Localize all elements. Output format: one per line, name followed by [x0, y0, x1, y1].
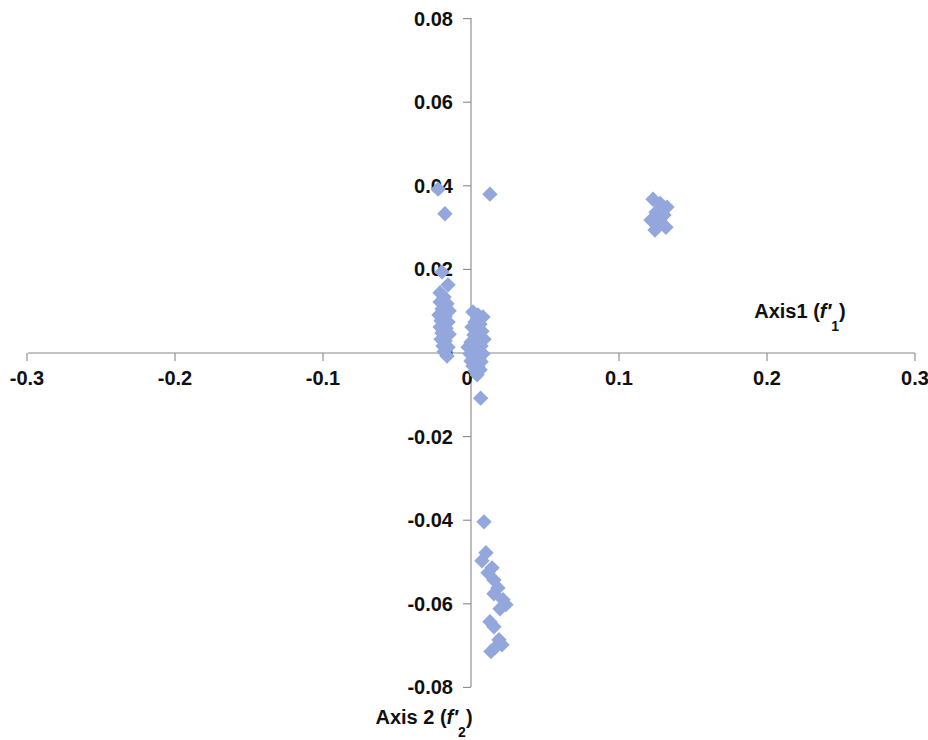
- y-tick-label: -0.08: [407, 676, 453, 698]
- x-axis-title: Axis1 (f′1): [754, 300, 846, 334]
- data-point-marker: [437, 206, 452, 221]
- y-tick-label: 0.08: [414, 8, 453, 30]
- x-tick-label: -0.1: [306, 367, 340, 389]
- data-point-marker: [482, 186, 497, 201]
- x-tick-label: 0.1: [605, 367, 633, 389]
- x-tick-label: -0.3: [10, 367, 44, 389]
- x-tick-label: 0.2: [753, 367, 781, 389]
- data-point-marker: [476, 514, 491, 529]
- data-point-marker: [473, 390, 488, 405]
- y-tick-label: 0.06: [414, 91, 453, 113]
- x-tick-label: -0.2: [158, 367, 192, 389]
- data-points: [430, 181, 674, 659]
- y-axis-title: Axis 2 (f′2): [375, 706, 472, 740]
- y-tick-label: -0.06: [407, 593, 453, 615]
- x-tick-label: 0.3: [901, 367, 928, 389]
- plot-area: -0.3-0.2-0.100.10.20.3 -0.08-0.06-0.04-0…: [0, 0, 928, 740]
- y-tick-label: -0.02: [407, 426, 453, 448]
- y-tick-label: -0.04: [407, 509, 453, 531]
- scatter-chart: -0.3-0.2-0.100.10.20.3 -0.08-0.06-0.04-0…: [0, 0, 928, 740]
